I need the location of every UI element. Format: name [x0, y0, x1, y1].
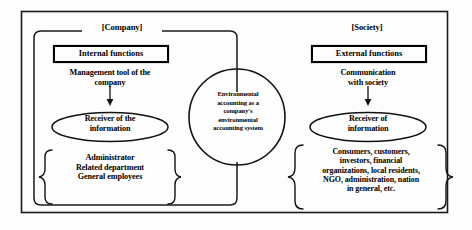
central-system-label: Environmental accounting as a company's …: [196, 90, 280, 133]
company-region-label: [Company]: [82, 22, 162, 32]
society-receiver-label: Receiver of information: [313, 114, 423, 133]
society-flow-arrow: [365, 86, 372, 106]
company-flow-arrow: [107, 86, 114, 106]
internal-functions-heading: Internal functions: [54, 46, 168, 62]
society-function-caption: Communication with society: [303, 68, 433, 87]
company-function-caption: Management tool of the company: [45, 68, 175, 87]
company-receiver-label: Receiver of the information: [55, 114, 165, 133]
society-region-label: [Society]: [327, 22, 407, 32]
society-stakeholders-list: Consumers, customers, investors, financi…: [297, 147, 445, 193]
external-functions-heading: External functions: [312, 46, 426, 62]
environmental-accounting-diagram: [Company] [Society] Internal functions E…: [0, 0, 472, 230]
company-stakeholders-list: Administrator Related department General…: [48, 153, 172, 182]
